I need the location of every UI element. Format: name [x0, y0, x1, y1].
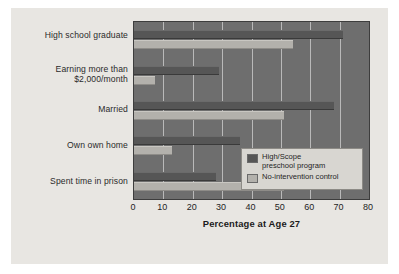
x-tick-label: 70: [334, 202, 344, 212]
y-category-line1: Married: [98, 104, 128, 114]
bar: [134, 172, 216, 181]
bar: [134, 146, 172, 155]
x-tick-label: 60: [304, 202, 314, 212]
bar: [134, 40, 293, 49]
bar: [134, 66, 219, 75]
x-tick-label: 0: [130, 202, 135, 212]
x-tick-label: 20: [187, 202, 197, 212]
x-tick-label: 40: [245, 202, 255, 212]
x-tick-label: 50: [275, 202, 285, 212]
y-category-line2: $2,000/month: [14, 74, 128, 84]
gridline: [369, 22, 370, 199]
bar: [134, 101, 334, 110]
legend-label-control: No-intervention control: [262, 173, 338, 182]
bar-group: [134, 66, 369, 85]
bar-group: [134, 101, 369, 120]
legend-label-control-line1: No-intervention control: [262, 173, 338, 182]
legend-label-program-line2: preschool program: [262, 162, 325, 171]
chart-legend: High/Scope preschool program No-interven…: [241, 148, 363, 190]
y-category-label: Married: [14, 104, 128, 114]
bar: [134, 136, 240, 145]
y-category-line1: High school graduate: [45, 30, 128, 40]
x-axis-tick-labels: 01020304050607080: [133, 202, 370, 215]
y-category-line1: Own own home: [67, 140, 128, 150]
y-axis-category-labels: High school graduate Earning more than $…: [14, 22, 128, 200]
legend-swatch-control-icon: [247, 174, 258, 183]
x-axis-title: Percentage at Age 27: [133, 218, 370, 229]
bar: [134, 76, 155, 85]
legend-swatch-program-icon: [247, 154, 258, 163]
legend-item-program: High/Scope preschool program: [247, 153, 358, 170]
x-tick-label: 10: [157, 202, 167, 212]
chart-figure: High school graduate Earning more than $…: [0, 0, 399, 274]
legend-label-program: High/Scope preschool program: [262, 153, 325, 170]
y-category-label: Spent time in prison: [14, 176, 128, 186]
y-category-label: Earning more than $2,000/month: [14, 64, 128, 84]
bar: [134, 30, 343, 39]
y-category-label: High school graduate: [14, 30, 128, 40]
y-category-line1: Earning more than: [56, 64, 128, 74]
x-tick-label: 30: [216, 202, 226, 212]
y-category-label: Own own home: [14, 140, 128, 150]
bar: [134, 111, 284, 120]
bar-group: [134, 30, 369, 49]
legend-item-control: No-intervention control: [247, 173, 358, 183]
y-category-line1: Spent time in prison: [50, 176, 128, 186]
x-tick-label: 80: [363, 202, 373, 212]
